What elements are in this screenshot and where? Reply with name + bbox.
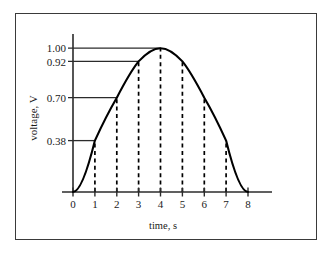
dashed-guides — [95, 48, 226, 192]
voltage-time-chart: 1.00 0.92 0.70 0.38 0 1 2 3 4 5 6 7 8 ti… — [0, 0, 332, 253]
y-axis-title: voltage, V — [27, 95, 39, 141]
y-tick-label-3: 0.70 — [47, 92, 67, 104]
figure-container: 1.00 0.92 0.70 0.38 0 1 2 3 4 5 6 7 8 ti… — [0, 0, 332, 253]
y-tick-label-2: 0.92 — [47, 56, 66, 68]
x-tick-label-4: 4 — [158, 198, 164, 210]
y-tick-label-4: 0.38 — [47, 135, 67, 147]
x-tick-label-6: 6 — [202, 198, 208, 210]
y-tick-label-1: 1.00 — [47, 42, 67, 54]
x-tick-label-8: 8 — [245, 198, 251, 210]
x-tick-label-7: 7 — [223, 198, 229, 210]
x-tick-label-1: 1 — [92, 198, 98, 210]
x-tick-label-0: 0 — [70, 198, 76, 210]
x-tick-label-2: 2 — [114, 198, 120, 210]
x-axis-title: time, s — [149, 220, 177, 231]
x-tick-label-3: 3 — [136, 198, 142, 210]
x-tick-label-5: 5 — [180, 198, 186, 210]
